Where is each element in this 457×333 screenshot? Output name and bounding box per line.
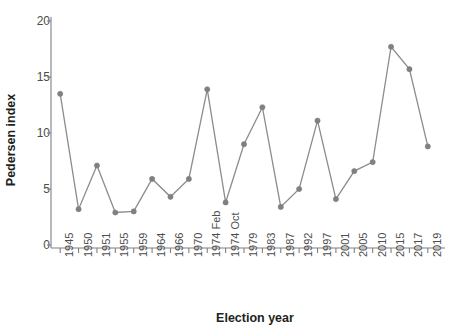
data-point-marker [186, 176, 191, 181]
x-tick-label: 1987 [285, 233, 296, 257]
x-tick-label: 2001 [340, 233, 351, 257]
data-point-marker [223, 200, 228, 205]
data-point-marker [150, 176, 155, 181]
x-tick-label: 1955 [119, 233, 130, 257]
x-tick-label: 2005 [358, 233, 369, 257]
x-tick-label: 1974 Feb [211, 211, 222, 257]
x-tick-label: 2019 [432, 233, 443, 257]
data-point-marker [205, 87, 210, 92]
data-point-marker [297, 186, 302, 191]
data-point-marker [241, 142, 246, 147]
data-point-marker [94, 163, 99, 168]
x-tick-label: 1997 [322, 233, 333, 257]
x-tick-label: 1945 [64, 233, 75, 257]
data-point-marker [370, 160, 375, 165]
x-tick-label: 1966 [174, 233, 185, 257]
chart-figure: Pedersen index 0 5 10 15 20 194519501951… [0, 0, 457, 333]
data-point-marker [113, 210, 118, 215]
x-tick-label: 1951 [101, 233, 112, 257]
x-tick-label: 1959 [138, 233, 149, 257]
data-point-marker [333, 196, 338, 201]
data-point-marker [260, 105, 265, 110]
data-point-marker [388, 44, 393, 49]
x-tick-label: 1970 [193, 233, 204, 257]
data-point-marker [425, 144, 430, 149]
data-point-marker [76, 207, 81, 212]
x-tick-label: 1992 [303, 233, 314, 257]
x-tick-label: 2015 [395, 233, 406, 257]
plot-area [0, 0, 457, 333]
x-tick-label: 1979 [248, 233, 259, 257]
data-line-pedersen-index [60, 47, 428, 213]
data-point-marker [407, 67, 412, 72]
data-point-marker [131, 209, 136, 214]
x-tick-label: 2017 [413, 233, 424, 257]
data-point-marker [315, 118, 320, 123]
data-point-marker [168, 194, 173, 199]
x-tick-label: 1964 [156, 233, 167, 257]
data-point-marker [278, 204, 283, 209]
x-axis-title: Election year [60, 311, 450, 325]
x-tick-label: 2010 [377, 233, 388, 257]
x-tick-label: 1983 [266, 233, 277, 257]
x-tick-label: 1950 [83, 233, 94, 257]
data-point-marker [352, 168, 357, 173]
data-point-marker [58, 91, 63, 96]
x-tick-label: 1974 Oct [230, 212, 241, 257]
